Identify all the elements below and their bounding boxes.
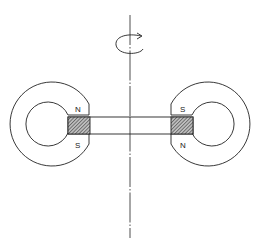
magnet-rotor-diagram: N S S N: [0, 0, 258, 252]
rotation-arrow-icon: [116, 33, 143, 53]
right-hatched-block: [171, 117, 193, 134]
right-bottom-pole-label: N: [180, 141, 186, 150]
right-top-pole-label: S: [180, 105, 185, 114]
left-top-pole-label: N: [75, 105, 81, 114]
left-hatched-block: [68, 117, 90, 134]
left-bottom-pole-label: S: [75, 141, 80, 150]
